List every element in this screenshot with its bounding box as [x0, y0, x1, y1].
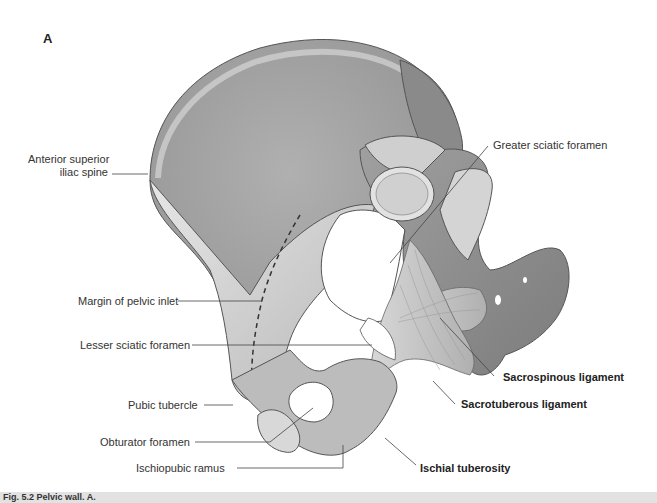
label-obturator-foramen: Obturator foramen	[100, 436, 190, 449]
label-line-2: iliac spine	[28, 166, 108, 179]
panel-letter: A	[43, 31, 52, 46]
obturator-foramen-opening	[289, 382, 333, 422]
label-ischiopubic-ramus: Ischiopubic ramus	[136, 462, 225, 475]
label-pubic-tubercle: Pubic tubercle	[128, 399, 198, 412]
label-line-1: Anterior superior	[28, 153, 108, 166]
label-anterior-superior-iliac-spine: Anterior superior iliac spine	[28, 153, 108, 179]
label-lesser-sciatic-foramen: Lesser sciatic foramen	[80, 339, 190, 352]
label-greater-sciatic-foramen: Greater sciatic foramen	[493, 139, 607, 152]
label-ischial-tuberosity: Ischial tuberosity	[420, 462, 510, 475]
label-margin-of-pelvic-inlet: Margin of pelvic inlet	[78, 295, 178, 308]
label-sacrospinous-ligament: Sacrospinous ligament	[503, 371, 624, 384]
label-sacrotuberous-ligament: Sacrotuberous ligament	[461, 398, 587, 411]
figure-caption-bar: Fig. 5.2 Pelvic wall. A.	[0, 492, 657, 503]
